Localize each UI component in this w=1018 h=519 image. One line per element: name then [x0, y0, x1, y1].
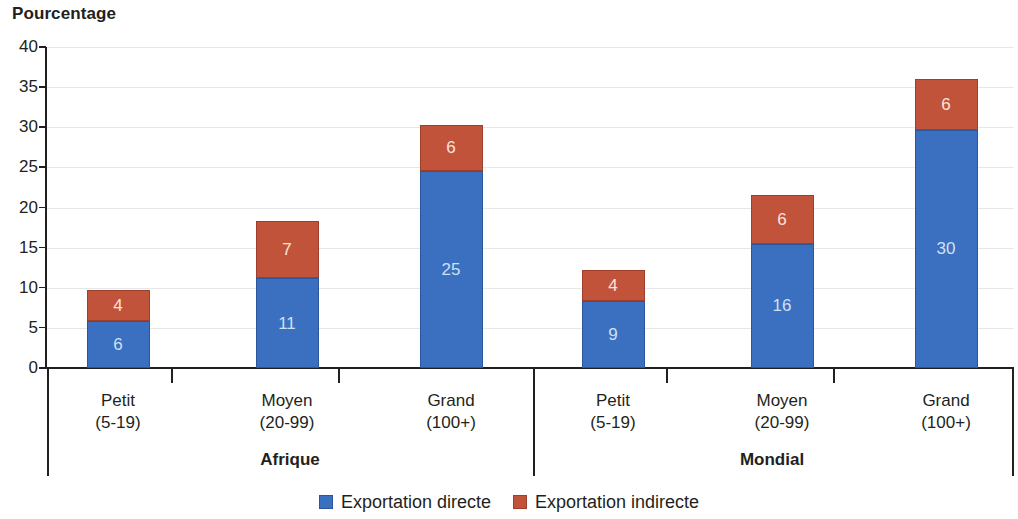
legend-label-indirect: Exportation indirecte — [535, 493, 699, 511]
y-tick-label-30: 30 — [0, 118, 38, 135]
y-tick-mark-5 — [39, 327, 46, 329]
gridline-5 — [47, 328, 1014, 329]
y-tick-label-15: 15 — [0, 239, 38, 256]
group-labels: AfriqueMondial — [47, 450, 1014, 476]
y-tick-label-10: 10 — [0, 279, 38, 296]
plot-area: 05101520253035406411725694166306 — [47, 47, 1014, 368]
bar-afrique-petit[interactable]: 64 — [87, 290, 150, 368]
bar-segment-direct-mondial-moyen[interactable]: 16 — [751, 244, 814, 368]
bar-segment-indirect-mondial-grand[interactable]: 6 — [915, 79, 978, 130]
bar-segment-direct-afrique-moyen[interactable]: 11 — [256, 278, 319, 368]
y-tick-mark-0 — [39, 367, 46, 369]
bar-segment-indirect-mondial-petit[interactable]: 4 — [582, 270, 645, 300]
gridline-15 — [47, 248, 1014, 249]
bar-segment-direct-afrique-petit[interactable]: 6 — [87, 321, 150, 368]
bar-value-indirect-afrique-moyen: 7 — [282, 241, 291, 258]
bar-value-direct-afrique-moyen: 11 — [278, 315, 296, 332]
legend-label-direct: Exportation directe — [341, 493, 491, 511]
bar-value-indirect-mondial-petit: 4 — [608, 277, 617, 294]
bar-value-indirect-afrique-petit: 4 — [113, 297, 122, 314]
bar-value-indirect-mondial-moyen: 6 — [777, 211, 786, 228]
bar-segment-direct-mondial-grand[interactable]: 30 — [915, 130, 978, 368]
y-tick-mark-20 — [39, 207, 46, 209]
bar-value-direct-mondial-moyen: 16 — [773, 297, 792, 314]
gridline-40 — [47, 47, 1014, 48]
legend-item-indirect[interactable]: Exportation indirecte — [513, 493, 699, 511]
bar-mondial-moyen[interactable]: 166 — [751, 195, 814, 368]
bar-value-direct-afrique-grand: 25 — [442, 261, 461, 278]
gridline-10 — [47, 288, 1014, 289]
y-tick-mark-10 — [39, 287, 46, 289]
y-tick-label-0: 0 — [0, 359, 38, 376]
gridline-20 — [47, 208, 1014, 209]
bar-segment-indirect-mondial-moyen[interactable]: 6 — [751, 195, 814, 243]
gridline-30 — [47, 127, 1014, 128]
chart-legend: Exportation directeExportation indirecte — [0, 489, 1018, 515]
bar-value-indirect-afrique-grand: 6 — [446, 139, 455, 156]
bar-value-indirect-mondial-grand: 6 — [941, 96, 950, 113]
y-tick-label-40: 40 — [0, 38, 38, 55]
y-tick-label-35: 35 — [0, 78, 38, 95]
legend-item-direct[interactable]: Exportation directe — [319, 493, 491, 511]
bar-afrique-moyen[interactable]: 117 — [256, 221, 319, 368]
legend-swatch-indirect-icon — [513, 495, 527, 509]
bar-segment-indirect-afrique-grand[interactable]: 6 — [420, 125, 483, 171]
group-label-afrique: Afrique — [190, 450, 390, 470]
gridline-35 — [47, 87, 1014, 88]
bar-segment-indirect-afrique-petit[interactable]: 4 — [87, 290, 150, 321]
y-tick-mark-35 — [39, 86, 46, 88]
bar-value-direct-mondial-grand: 30 — [937, 240, 956, 257]
stacked-bar-chart: Pourcentage 0510152025303540641172569416… — [0, 0, 1018, 519]
bar-afrique-grand[interactable]: 256 — [420, 125, 483, 368]
bar-segment-indirect-afrique-moyen[interactable]: 7 — [256, 221, 319, 278]
bar-value-direct-mondial-petit: 9 — [608, 326, 617, 343]
group-label-mondial: Mondial — [672, 450, 872, 470]
bar-mondial-petit[interactable]: 94 — [582, 270, 645, 368]
bar-value-direct-afrique-petit: 6 — [113, 336, 122, 353]
y-tick-label-20: 20 — [0, 199, 38, 216]
y-tick-mark-30 — [39, 126, 46, 128]
bar-mondial-grand[interactable]: 306 — [915, 79, 978, 368]
gridline-25 — [47, 167, 1014, 168]
bar-segment-direct-mondial-petit[interactable]: 9 — [582, 301, 645, 368]
legend-swatch-direct-icon — [319, 495, 333, 509]
y-tick-mark-40 — [39, 46, 46, 48]
y-tick-mark-25 — [39, 166, 46, 168]
bar-segment-direct-afrique-grand[interactable]: 25 — [420, 171, 483, 368]
y-tick-label-25: 25 — [0, 158, 38, 175]
y-tick-label-5: 5 — [0, 319, 38, 336]
y-axis-title: Pourcentage — [12, 4, 116, 24]
y-tick-mark-15 — [39, 247, 46, 249]
